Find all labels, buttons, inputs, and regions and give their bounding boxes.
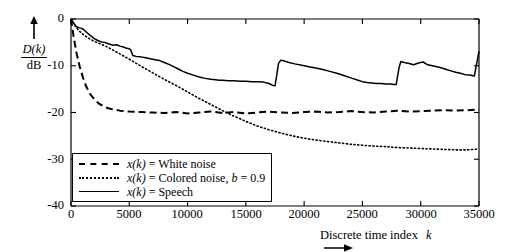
data-series-layer xyxy=(71,19,479,150)
legend-sample-dotted-icon xyxy=(79,172,119,184)
legend-item-colored-noise: x(k) = Colored noise, b = 0.9 xyxy=(73,171,271,185)
legend-label-white-noise-rest: = White noise xyxy=(146,157,216,171)
legend-label-colored-noise-rest: = Colored noise, xyxy=(146,171,232,185)
legend-sample-dashed-icon xyxy=(79,158,119,170)
legend-label-colored-noise: x(k) = Colored noise, b = 0.9 xyxy=(127,171,265,186)
x-axis-arrow-icon xyxy=(324,243,354,252)
legend-label-colored-noise-var: x(k) xyxy=(127,171,146,185)
legend-box: x(k) = White noise x(k) = Colored noise,… xyxy=(72,153,272,202)
series-line-2 xyxy=(71,19,479,86)
legend-label-white-noise: x(k) = White noise xyxy=(127,157,216,172)
legend-label-b-value: = 0.9 xyxy=(237,171,265,185)
legend-label-speech: x(k) = Speech xyxy=(127,185,193,200)
x-axis-caption: Discrete time index k xyxy=(320,228,432,252)
legend-label-speech-var: x(k) xyxy=(127,185,146,199)
legend-label-white-noise-var: x(k) xyxy=(127,157,146,171)
legend-sample-solid-icon xyxy=(79,186,119,198)
x-axis-caption-text: Discrete time index xyxy=(320,228,418,242)
x-axis-caption-variable: k xyxy=(426,228,432,242)
series-line-0 xyxy=(71,19,479,113)
legend-label-speech-rest: = Speech xyxy=(146,185,193,199)
chart-figure: D(k) dB 0 -10 -20 -30 -40 0 5000 10000 1… xyxy=(0,0,514,252)
legend-item-speech: x(k) = Speech xyxy=(73,185,271,199)
legend-item-white-noise: x(k) = White noise xyxy=(73,157,271,171)
x-tick-label-35000: 35000 xyxy=(444,208,514,221)
